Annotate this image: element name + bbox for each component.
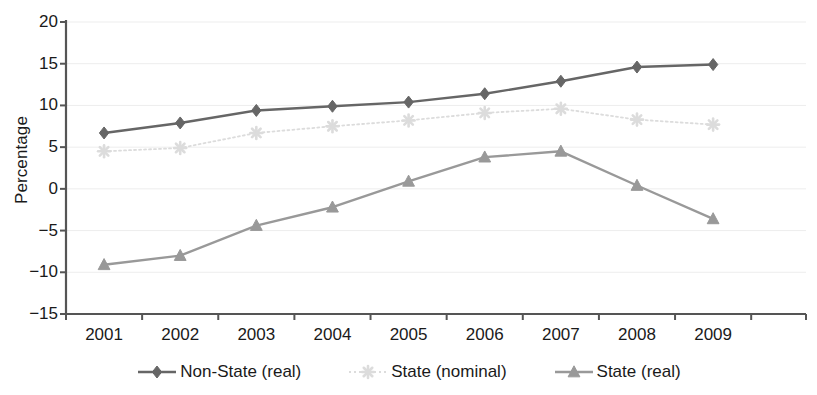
x-axis-tick-label: 2001 (64, 326, 144, 343)
legend-item[interactable]: State (real) (553, 362, 681, 382)
legend-swatch-star-icon (347, 362, 389, 382)
data-point-marker-star (707, 119, 719, 131)
legend-item[interactable]: Non-State (real) (136, 362, 301, 382)
data-point-marker-diamond (556, 75, 565, 87)
data-point-marker-star (98, 145, 110, 157)
data-point-marker-star (362, 366, 374, 378)
data-point-marker-diamond (153, 366, 162, 378)
legend-item[interactable]: State (nominal) (347, 362, 506, 382)
series-state-nominal (98, 103, 719, 158)
legend-label: State (real) (597, 362, 681, 382)
data-point-marker-star (631, 114, 643, 126)
data-point-marker-star (250, 127, 262, 139)
data-point-marker-diamond (328, 100, 337, 112)
x-axis-tick-label: 2006 (445, 326, 525, 343)
data-point-marker-star (326, 120, 338, 132)
data-point-marker-star (555, 103, 567, 115)
data-point-marker-diamond (708, 59, 717, 71)
data-point-marker-diamond (99, 127, 108, 139)
x-axis-tick-label: 2005 (369, 326, 449, 343)
data-point-marker-star (403, 114, 415, 126)
x-axis-tick-label: 2004 (292, 326, 372, 343)
chart-legend: Non-State (real)State (nominal)State (re… (0, 362, 817, 382)
legend-label: State (nominal) (391, 362, 506, 382)
data-point-marker-star (174, 142, 186, 154)
data-point-marker-diamond (632, 61, 641, 73)
series-line (104, 151, 713, 264)
legend-swatch-triangle-icon (553, 362, 595, 382)
data-point-marker-diamond (176, 117, 185, 129)
data-point-marker-star (479, 107, 491, 119)
x-axis-tick-label: 2007 (521, 326, 601, 343)
data-point-marker-diamond (480, 88, 489, 100)
data-point-marker-diamond (404, 96, 413, 108)
x-axis-tick-label: 2009 (673, 326, 753, 343)
line-chart: Percentage 20151050−5−10−15 200120022003… (0, 0, 817, 395)
x-axis-tick-label: 2003 (216, 326, 296, 343)
legend-label: Non-State (real) (180, 362, 301, 382)
x-axis-tick-label: 2008 (597, 326, 677, 343)
x-axis-tick-label: 2002 (140, 326, 220, 343)
data-point-marker-diamond (252, 104, 261, 116)
legend-swatch-diamond-icon (136, 362, 178, 382)
series-state-real (98, 145, 719, 269)
